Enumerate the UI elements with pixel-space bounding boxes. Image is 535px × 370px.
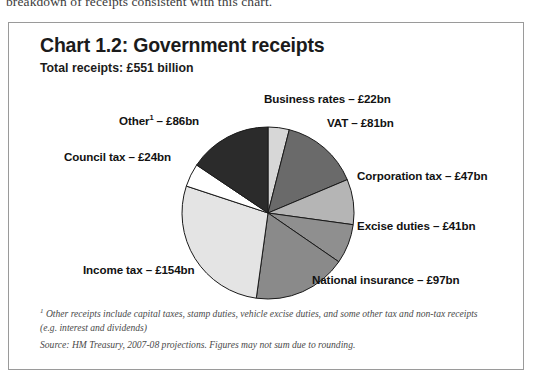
chart-figure-box: Chart 1.2: Government receipts Total rec… bbox=[8, 22, 524, 370]
chart-subtitle: Total receipts: £551 billion bbox=[40, 61, 194, 75]
pie-label-national-insurance: National insurance – £97bn bbox=[312, 273, 460, 286]
pie-label-other-value: – £86bn bbox=[154, 114, 200, 127]
footnote-text: Other receipts include capital taxes, st… bbox=[40, 308, 478, 333]
chart-source-note: Source: HM Treasury, 2007-08 projections… bbox=[40, 338, 488, 352]
pie-label-excise-duties: Excise duties – £41bn bbox=[357, 219, 475, 232]
pie-label-other: Other1 – £86bn bbox=[119, 114, 199, 127]
pie-label-council-tax: Council tax – £24bn bbox=[64, 150, 171, 163]
pie-label-vat: VAT – £81bn bbox=[327, 116, 394, 129]
document-body-text: breakdown of receipts consistent with th… bbox=[6, 0, 426, 10]
pie-label-income-tax: Income tax – £154bn bbox=[83, 263, 195, 276]
chart-title: Chart 1.2: Government receipts bbox=[40, 34, 324, 57]
pie-label-other-text: Other bbox=[119, 114, 149, 127]
pie-label-business-rates: Business rates – £22bn bbox=[264, 92, 391, 105]
chart-footnote: 1 Other receipts include capital taxes, … bbox=[40, 307, 488, 334]
pie-label-corporation-tax: Corporation tax – £47bn bbox=[357, 169, 487, 182]
